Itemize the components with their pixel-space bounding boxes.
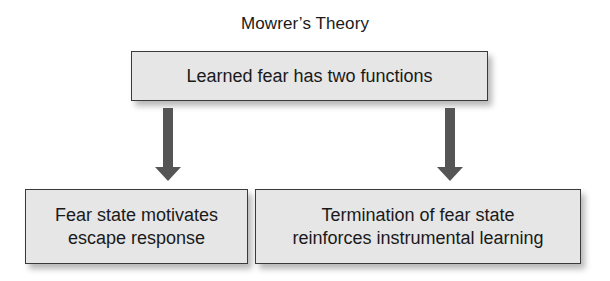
child-node-line: Termination of fear state: [292, 204, 543, 227]
arrow-down-icon: [154, 108, 182, 184]
arrow-shaft: [163, 108, 173, 168]
child-node-reinforcement-box: Termination of fear state reinforces ins…: [255, 189, 581, 264]
arrow-head: [437, 167, 463, 181]
child-node-escape-box: Fear state motivates escape response: [25, 189, 248, 264]
child-node-line: Fear state motivates: [55, 204, 218, 227]
arrow-shaft: [445, 108, 455, 168]
child-node-line: reinforces instrumental learning: [292, 227, 543, 250]
arrow-down-icon: [436, 108, 464, 184]
child-node-reinforcement-text: Termination of fear state reinforces ins…: [292, 204, 543, 250]
root-node-label: Learned fear has two functions: [186, 65, 432, 88]
arrow-head: [155, 167, 181, 181]
diagram-title: Mowrer’s Theory: [0, 14, 610, 34]
root-node-box: Learned fear has two functions: [131, 51, 488, 101]
child-node-line: escape response: [55, 227, 218, 250]
child-node-escape-text: Fear state motivates escape response: [55, 204, 218, 250]
